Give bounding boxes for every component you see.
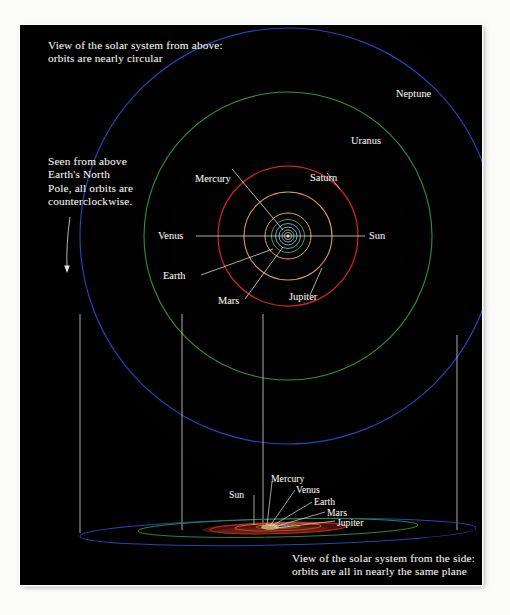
leader-side-mercury (267, 482, 272, 525)
leader-mercury (232, 169, 283, 230)
label-mars: Mars (218, 295, 239, 306)
caption-orientation-note: Seen from above Earth's North Pole, all … (48, 155, 133, 209)
label-uranus: Uranus (351, 135, 381, 146)
label-neptune: Neptune (396, 88, 431, 99)
leader-side-venus (270, 490, 295, 526)
label-side-mercury: Mercury (271, 473, 304, 484)
label-saturn: Saturn (310, 172, 337, 183)
label-side-jupiter: Jupiter (337, 517, 363, 528)
caption-top-left: View of the solar system from above: orb… (48, 39, 223, 66)
side-view-orbits (80, 515, 476, 549)
label-jupiter: Jupiter (289, 291, 317, 302)
counterclockwise-arrow (64, 217, 70, 273)
label-mercury: Mercury (195, 173, 231, 184)
solar-system-figure: View of the solar system from above: orb… (0, 0, 510, 615)
label-side-earth: Earth (314, 496, 335, 507)
diagram-svg (20, 25, 482, 585)
projection-lines (80, 314, 457, 533)
label-venus: Venus (158, 230, 183, 241)
label-side-venus: Venus (296, 484, 320, 495)
label-side-sun: Sun (229, 489, 244, 500)
label-earth: Earth (163, 270, 186, 281)
leader-mars (245, 247, 283, 299)
side-sun-glow (261, 524, 279, 530)
diagram-panel: View of the solar system from above: orb… (20, 25, 482, 585)
label-sun: Sun (369, 230, 385, 241)
caption-bottom-right: View of the solar system from the side: … (292, 552, 475, 579)
